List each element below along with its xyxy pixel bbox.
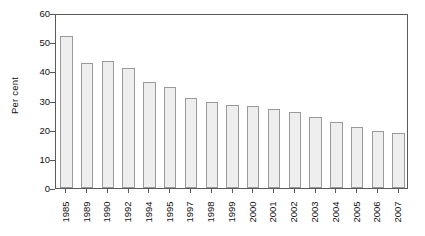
x-tick-mark: [232, 189, 233, 193]
bar: [226, 105, 238, 188]
x-tick-mark: [273, 189, 274, 193]
bar: [81, 63, 93, 188]
y-tick-label: 20: [24, 126, 50, 136]
x-tick-mark: [356, 189, 357, 193]
bar: [102, 61, 114, 188]
bar-chart-figure: Per cent 0102030405060 19851989199019921…: [0, 0, 425, 236]
bar: [309, 117, 321, 188]
x-tick-mark: [65, 189, 66, 193]
x-tick-mark: [315, 189, 316, 193]
x-tick-mark: [211, 189, 212, 193]
bar: [60, 36, 72, 188]
y-tick-mark: [50, 131, 55, 132]
bars-layer: [56, 15, 407, 188]
plot-area: [55, 14, 408, 189]
bar: [206, 102, 218, 188]
y-tick-mark: [50, 72, 55, 73]
y-tick-mark: [50, 14, 55, 15]
x-tick-label: 2007: [378, 193, 418, 233]
bar: [392, 133, 404, 188]
x-tick-mark: [335, 189, 336, 193]
x-tick-mark: [128, 189, 129, 193]
y-tick-mark: [50, 160, 55, 161]
y-axis-tick-labels: 0102030405060: [24, 0, 50, 200]
x-tick-mark: [169, 189, 170, 193]
x-tick-mark: [377, 189, 378, 193]
bar: [185, 98, 197, 188]
bar: [372, 131, 384, 188]
x-tick-mark: [190, 189, 191, 193]
x-tick-label-text: 2007: [393, 201, 403, 222]
y-tick-label: 50: [24, 38, 50, 48]
x-tick-mark: [252, 189, 253, 193]
bar: [351, 127, 363, 188]
bar: [330, 122, 342, 188]
x-axis-tick-labels: 1985198919901992199419951997199819992000…: [0, 193, 425, 235]
y-axis-title-label: Per cent: [9, 77, 20, 114]
x-tick-mark: [148, 189, 149, 193]
bar: [289, 112, 301, 188]
bar: [268, 109, 280, 188]
x-tick-mark: [294, 189, 295, 193]
x-tick-mark: [86, 189, 87, 193]
y-tick-mark: [50, 189, 55, 190]
bar: [122, 68, 134, 188]
y-axis-title: Per cent: [4, 0, 24, 190]
bar: [143, 82, 155, 188]
y-tick-mark: [50, 102, 55, 103]
y-tick-label: 60: [24, 9, 50, 19]
x-tick-mark: [107, 189, 108, 193]
y-tick-label: 30: [24, 97, 50, 107]
y-tick-label: 40: [24, 68, 50, 78]
bar: [164, 87, 176, 188]
y-tick-label: 10: [24, 155, 50, 165]
y-tick-mark: [50, 43, 55, 44]
x-tick-mark: [398, 189, 399, 193]
bar: [247, 106, 259, 188]
